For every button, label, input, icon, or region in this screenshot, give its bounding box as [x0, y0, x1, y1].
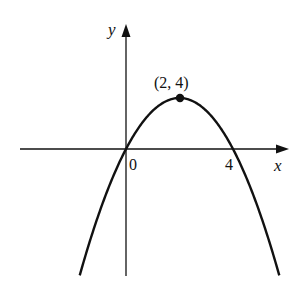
vertex-point: [176, 94, 184, 102]
x-axis-label: x: [273, 156, 282, 175]
x-axis-arrow-icon: [276, 145, 289, 154]
root-label: 4: [225, 156, 233, 173]
origin-label: 0: [129, 156, 137, 173]
y-axis-label: y: [106, 20, 116, 39]
y-axis-arrow-icon: [122, 24, 131, 37]
parabola-curve: [80, 98, 280, 275]
vertex-label: (2, 4): [154, 74, 189, 92]
parabola-graph: (2, 4) 0 4 x y: [0, 0, 298, 286]
